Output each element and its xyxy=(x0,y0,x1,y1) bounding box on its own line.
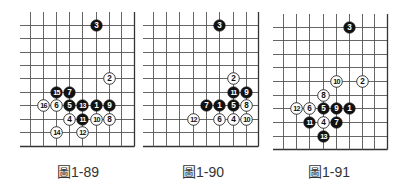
stones: 31028126591114713 xyxy=(291,22,369,143)
white-stone-2: 2 xyxy=(357,76,369,88)
move-number: 2 xyxy=(360,77,365,86)
move-number: 1 xyxy=(347,104,352,113)
black-stone-9: 9 xyxy=(331,103,343,115)
move-number: 11 xyxy=(307,118,314,127)
move-number: 5 xyxy=(321,104,326,113)
move-number: 12 xyxy=(293,104,300,113)
white-stone-12: 12 xyxy=(291,103,303,115)
move-number: 4 xyxy=(321,118,326,127)
black-stone-3: 3 xyxy=(344,22,356,34)
figure-1-91: 31028126591114713 圖1-91 xyxy=(0,0,405,188)
white-stone-10: 10 xyxy=(331,76,343,88)
move-number: 13 xyxy=(320,132,327,141)
go-board-1-91: 31028126591114713 xyxy=(0,0,405,188)
black-stone-13: 13 xyxy=(318,131,330,143)
white-stone-8: 8 xyxy=(318,90,330,102)
black-stone-7: 7 xyxy=(331,117,343,129)
caption-1-91: 圖1-91 xyxy=(308,161,350,181)
black-stone-1: 1 xyxy=(344,103,356,115)
move-number: 7 xyxy=(334,118,339,127)
move-number: 9 xyxy=(334,104,339,113)
move-number: 6 xyxy=(307,104,312,113)
move-number: 8 xyxy=(321,91,326,100)
black-stone-11: 11 xyxy=(304,117,316,129)
white-stone-4: 4 xyxy=(318,117,330,129)
grid-lines xyxy=(273,14,388,150)
move-number: 3 xyxy=(347,23,352,32)
move-number: 10 xyxy=(333,77,340,86)
black-stone-5: 5 xyxy=(318,103,330,115)
white-stone-6: 6 xyxy=(304,103,316,115)
